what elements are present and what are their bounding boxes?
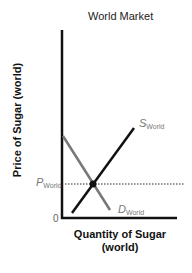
equilibrium-point xyxy=(90,181,97,188)
supply-label: SWorld xyxy=(139,117,165,130)
demand-label-sub: World xyxy=(126,209,144,216)
world-price-label-sub: World xyxy=(43,182,61,189)
world-price-label: PWorld xyxy=(36,176,62,189)
origin-label: 0 xyxy=(53,213,59,224)
demand-label-main: D xyxy=(118,203,126,215)
demand-label: DWorld xyxy=(118,203,144,216)
supply-label-sub: World xyxy=(146,123,164,130)
demand-curve xyxy=(63,136,110,210)
chart-plot xyxy=(0,0,192,273)
